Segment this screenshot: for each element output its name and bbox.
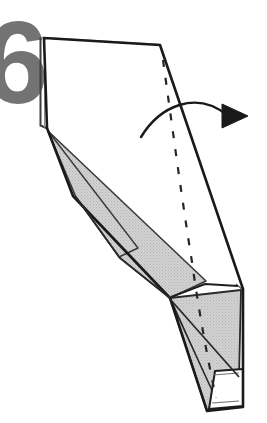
- fold-arrow-head: [222, 104, 248, 128]
- origami-diagram-canvas: 6: [0, 0, 267, 423]
- origami-figure: 6: [0, 0, 267, 423]
